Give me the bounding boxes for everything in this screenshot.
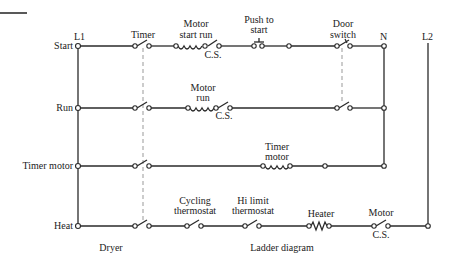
rung-label-start: Start (54, 40, 73, 51)
ladder-diagram: L1 N L2 Start Run Timer motor Heat (0, 0, 451, 264)
rung-label-heat: Heat (54, 220, 73, 231)
rung-label-run: Run (56, 102, 73, 113)
label-cs-heat: C.S. (372, 229, 389, 240)
label-door-2: switch (330, 29, 356, 40)
label-cs-start: C.S. (204, 49, 221, 60)
caption-dryer: Dryer (99, 242, 123, 253)
rung-timer-motor (76, 160, 387, 169)
label-heater: Heater (308, 208, 335, 219)
rail-label-l2: L2 (422, 31, 433, 42)
label-door-1: Door (333, 18, 354, 29)
label-push-2: start (250, 24, 267, 35)
label-timer-motor-2: motor (265, 151, 290, 162)
label-cs-run: C.S. (215, 110, 232, 121)
label-timer: Timer (131, 29, 156, 40)
label-motor-run-2: run (196, 92, 209, 103)
caption-ladder-diagram: Ladder diagram (250, 242, 314, 253)
rail-label-n: N (380, 31, 387, 42)
rail-label-l1: L1 (74, 31, 85, 42)
node (76, 44, 81, 49)
label-motor-start-run-2: start run (179, 29, 212, 40)
label-motor-start-run-1: Motor (184, 18, 210, 29)
rung-label-timer-motor: Timer motor (23, 160, 74, 171)
label-motor-cs: Motor (369, 207, 395, 218)
label-cycling-2: thermostat (174, 205, 216, 216)
label-hilimit-2: thermostat (232, 205, 274, 216)
